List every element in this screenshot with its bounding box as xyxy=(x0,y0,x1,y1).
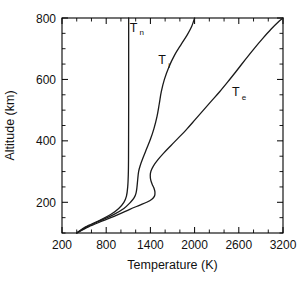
curve-label-subscript-Ti: i xyxy=(168,61,170,70)
temperature-altitude-chart: 2008001400200026003200200400600800Temper… xyxy=(0,0,301,284)
curve-label-Ti: T xyxy=(158,53,166,67)
curve-Tn xyxy=(77,18,129,233)
y-axis-title: Altitude (km) xyxy=(3,90,17,160)
curve-label-subscript-Te: e xyxy=(242,93,247,102)
curve-label-subscript-Tn: n xyxy=(139,28,143,37)
x-axis-tick-label: 3200 xyxy=(270,238,297,252)
y-axis-tick-label: 400 xyxy=(36,134,56,148)
curve-Te xyxy=(77,18,283,233)
x-axis-title: Temperature (K) xyxy=(127,258,217,272)
x-axis-tick-label: 800 xyxy=(96,238,116,252)
x-axis-tick-label: 2000 xyxy=(181,238,208,252)
curve-label-Tn: T xyxy=(130,21,138,35)
y-axis-tick-label: 800 xyxy=(36,12,56,26)
curve-Ti xyxy=(77,18,195,233)
x-axis-tick-label: 1400 xyxy=(137,238,164,252)
curve-label-Te: T xyxy=(232,85,240,99)
x-axis-tick-label: 2600 xyxy=(225,238,252,252)
x-axis-tick-label: 200 xyxy=(52,238,72,252)
plot-frame xyxy=(62,18,283,233)
y-axis-tick-label: 200 xyxy=(36,196,56,210)
chart-svg: 2008001400200026003200200400600800Temper… xyxy=(0,0,301,284)
y-axis-tick-label: 600 xyxy=(36,73,56,87)
